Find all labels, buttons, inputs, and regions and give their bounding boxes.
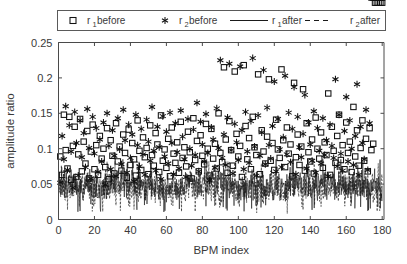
chart-figure: r1 beforer2 beforer1 afterr2 after 02040… (0, 0, 407, 264)
x-tick-label: 180 (373, 224, 391, 236)
y-tick-label: 0 (46, 214, 52, 226)
legend-label-suffix: before (97, 15, 126, 26)
x-tick-label: 160 (337, 224, 355, 236)
legend-label-suffix: after (360, 15, 381, 26)
x-tick-label: 80 (196, 224, 208, 236)
legend-label-suffix: after (282, 15, 303, 26)
x-tick-label: 100 (229, 224, 247, 236)
chart-canvas: r1 beforer2 beforer1 afterr2 after 02040… (0, 0, 407, 264)
legend-label-suffix: before (189, 15, 218, 26)
x-tick-label: 120 (265, 224, 283, 236)
chart-legend: r1 beforer2 beforer1 afterr2 after (58, 11, 386, 31)
y-tick-label: 0.15 (31, 107, 52, 119)
x-axis-title: BPM index (193, 244, 249, 256)
x-tick-label: 0 (55, 224, 61, 236)
y-tick-label: 0.1 (37, 143, 52, 155)
y-tick-label: 0.2 (37, 72, 52, 84)
y-tick-label: 0.05 (31, 178, 52, 190)
y-axis-title: amplitude ratio (4, 93, 16, 168)
x-tick-label: 140 (301, 224, 319, 236)
x-tick-label: 40 (124, 224, 136, 236)
x-tick-label: 60 (160, 224, 172, 236)
x-tick-label: 20 (88, 224, 100, 236)
y-tick-label: 0.25 (31, 37, 52, 49)
